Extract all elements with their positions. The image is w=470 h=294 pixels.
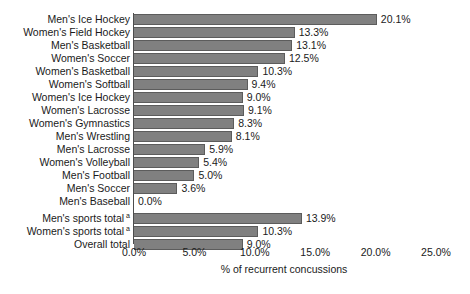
chart-row: Women's Soccer12.5% (0, 53, 470, 64)
x-axis-title: % of recurrent concussions (133, 263, 435, 276)
bar (134, 40, 292, 51)
bar (134, 213, 302, 224)
category-label: Men's sports total a (0, 212, 130, 224)
category-label: Women's sports total a (0, 225, 130, 237)
category-label: Women's Ice Hockey (0, 91, 130, 103)
bar-value-label: 13.9% (306, 212, 336, 224)
chart-row: Men's Football5.0% (0, 170, 470, 181)
bar-value-label: 10.3% (262, 65, 292, 77)
bar (134, 92, 243, 103)
category-label: Women's Soccer (0, 52, 130, 64)
chart-row: Men's sports total a13.9% (0, 213, 470, 224)
category-label: Men's Lacrosse (0, 143, 130, 155)
bar (134, 53, 285, 64)
category-label: Women's Lacrosse (0, 104, 130, 116)
bar (134, 14, 377, 25)
bar (134, 144, 205, 155)
bar (134, 105, 244, 116)
plot-area: Men's Ice Hockey20.1%Women's Field Hocke… (0, 0, 470, 294)
bar-value-label: 12.5% (289, 52, 319, 64)
bar-value-label: 13.1% (296, 39, 326, 51)
bar-value-label: 3.6% (181, 182, 205, 194)
category-label: Women's Basketball (0, 65, 130, 77)
bar-value-label: 13.3% (299, 26, 329, 38)
chart-row: Women's sports total a10.3% (0, 226, 470, 237)
bar (134, 157, 199, 168)
bar (134, 170, 194, 181)
bar-value-label: 20.1% (381, 13, 411, 25)
bar (134, 27, 295, 38)
x-tick-label: 10.0% (240, 246, 270, 259)
chart-row: Men's Soccer3.6% (0, 183, 470, 194)
bar-value-label: 10.3% (262, 225, 292, 237)
chart-row: Women's Basketball10.3% (0, 66, 470, 77)
category-label: Men's Wrestling (0, 130, 130, 142)
bar-value-label: 8.1% (236, 130, 260, 142)
category-label: Men's Baseball (0, 195, 130, 207)
chart-row: Women's Gymnastics8.3% (0, 118, 470, 129)
x-tick-label: 25.0% (421, 246, 451, 259)
bar-value-label: 5.4% (203, 156, 227, 168)
recurrent-concussions-bar-chart: Men's Ice Hockey20.1%Women's Field Hocke… (0, 0, 470, 294)
bar-value-label: 9.4% (252, 78, 276, 90)
category-label: Men's Football (0, 169, 130, 181)
bar-value-label: 5.0% (198, 169, 222, 181)
x-tick-label: 0.0% (122, 246, 146, 259)
category-label: Men's Soccer (0, 182, 130, 194)
x-tick-label: 5.0% (182, 246, 206, 259)
bar (134, 66, 258, 77)
footnote-marker: a (124, 225, 130, 232)
chart-row: Women's Ice Hockey9.0% (0, 92, 470, 103)
category-label: Women's Volleyball (0, 156, 130, 168)
chart-row: Men's Basketball13.1% (0, 40, 470, 51)
bar-value-label: 8.3% (238, 117, 262, 129)
category-label: Women's Softball (0, 78, 130, 90)
category-label: Men's Ice Hockey (0, 13, 130, 25)
chart-row: Women's Volleyball5.4% (0, 157, 470, 168)
chart-row: Men's Baseball0.0% (0, 196, 470, 207)
bar (134, 226, 258, 237)
bar (134, 131, 232, 142)
chart-row: Men's Lacrosse5.9% (0, 144, 470, 155)
chart-row: Women's Softball9.4% (0, 79, 470, 90)
x-tick-label: 15.0% (300, 246, 330, 259)
category-label: Men's Basketball (0, 39, 130, 51)
category-label: Women's Field Hockey (0, 26, 130, 38)
x-tick-label: 20.0% (361, 246, 391, 259)
bar-value-label: 9.0% (247, 91, 271, 103)
bar (134, 79, 248, 90)
chart-row: Women's Lacrosse9.1% (0, 105, 470, 116)
bar (134, 183, 177, 194)
bar-value-label: 5.9% (209, 143, 233, 155)
chart-row: Men's Ice Hockey20.1% (0, 14, 470, 25)
chart-row: Women's Field Hockey13.3% (0, 27, 470, 38)
x-axis-tick-labels: 0.0%5.0%10.0%15.0%20.0%25.0% (0, 246, 470, 260)
bar-value-label: 9.1% (248, 104, 272, 116)
footnote-marker: a (124, 212, 130, 219)
chart-row: Men's Wrestling8.1% (0, 131, 470, 142)
bar (134, 118, 234, 129)
bar-value-label: 0.0% (138, 195, 162, 207)
category-label: Women's Gymnastics (0, 117, 130, 129)
